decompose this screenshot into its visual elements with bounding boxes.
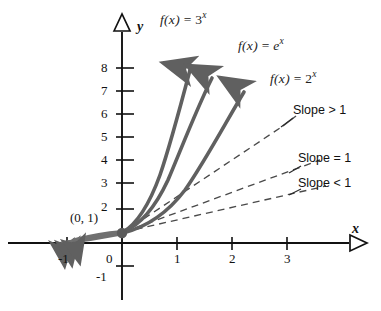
x-tick-label-2: 2: [229, 252, 236, 265]
reference-lines-group: [124, 116, 326, 232]
slope-label-equal-1: Slope = 1: [298, 152, 351, 165]
slope-label-less-than-1: Slope < 1: [298, 177, 351, 190]
fn-2x-equals: =: [294, 71, 302, 86]
x-tick-label-1: 1: [174, 252, 181, 265]
function-label-3x: f(x) = 3x: [160, 11, 207, 26]
y-axis-label: y: [137, 20, 143, 34]
leader-gt: [281, 118, 293, 127]
y-tick-label-4: 4: [101, 153, 108, 166]
y-tick-label--1: -1: [96, 270, 107, 283]
fn-2x-exponent: x: [312, 69, 317, 79]
leader-eq: [289, 166, 301, 173]
y-axis-arrowhead: [114, 14, 130, 31]
y-tick-label-6: 6: [101, 107, 108, 120]
fn-ex-prefix: f(x): [238, 38, 258, 53]
exponential-functions-figure: y x f(x) = 3x f(x) = ex f(x) = 2x Slope …: [0, 0, 381, 311]
y-tick-label-3: 3: [101, 176, 108, 189]
intercept-point-label: (0, 1): [70, 211, 98, 224]
fn-ex-equals: =: [262, 38, 270, 53]
fn-2x-prefix: f(x): [270, 71, 290, 86]
y-tick-label-8: 8: [101, 61, 108, 74]
fn-3x-prefix: f(x): [160, 12, 180, 27]
x-axis-arrowhead: [350, 235, 367, 251]
fn-3x-exponent: x: [202, 10, 207, 20]
curve-tails-group: [62, 232, 120, 243]
intercept-marker: [117, 228, 127, 238]
x-tick-label-0: 0: [106, 252, 113, 265]
function-label-2x: f(x) = 2x: [270, 70, 317, 85]
y-tick-label-5: 5: [101, 130, 108, 143]
curves-group: [123, 70, 244, 233]
fn-ex-exponent: x: [280, 36, 285, 46]
x-tick-label-3: 3: [284, 252, 291, 265]
y-tick-label-2: 2: [101, 200, 108, 213]
x-tick-label--1: -1: [58, 252, 69, 265]
function-label-ex: f(x) = ex: [238, 37, 284, 52]
y-tick-label-7: 7: [101, 84, 108, 97]
fn-3x-equals: =: [184, 12, 192, 27]
reference-line-slope-gt-1: [124, 126, 283, 232]
x-axis-label: x: [352, 222, 359, 236]
slope-label-greater-than-1: Slope > 1: [293, 104, 346, 117]
